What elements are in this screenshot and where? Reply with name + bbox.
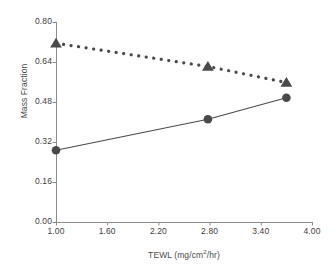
axis-lines: [56, 22, 312, 223]
data-point-circle: [282, 93, 291, 102]
data-point-triangle: [50, 38, 62, 48]
data-series-group: [50, 38, 292, 155]
data-point-triangle: [202, 61, 214, 71]
series-line: [56, 98, 286, 151]
series-line: [56, 43, 286, 82]
series-triangle: [50, 38, 292, 87]
y-axis-tick-marks: [53, 23, 57, 223]
data-point-circle: [52, 146, 61, 155]
chart-figure: Mass Fraction TEWL (mg/cm2/hr) 0.000.160…: [0, 0, 332, 272]
plot-area: [0, 0, 332, 272]
series-circle: [52, 93, 291, 154]
data-point-circle: [204, 115, 213, 124]
